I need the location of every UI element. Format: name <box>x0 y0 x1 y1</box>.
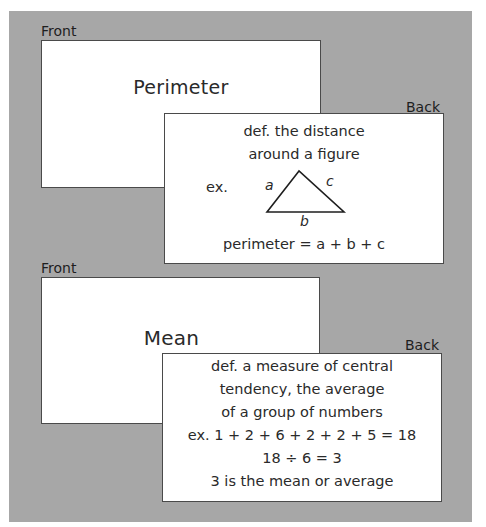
triangle-label-a: a <box>265 177 274 193</box>
back-label-mean: Back <box>405 337 439 353</box>
definition-perimeter: def. the distance around a figure <box>165 120 443 166</box>
formula-perimeter: perimeter = a + b + c <box>165 233 443 256</box>
term-perimeter: Perimeter <box>42 76 320 98</box>
front-label-mean: Front <box>41 260 76 276</box>
definition-line: of a group of numbers <box>163 401 441 424</box>
back-card-mean: def. a measure of central tendency, the … <box>162 353 442 502</box>
example-line: 18 ÷ 6 = 3 <box>163 447 441 470</box>
triangle-diagram <box>265 169 349 217</box>
triangle-label-b: b <box>300 213 309 229</box>
back-card-perimeter: def. the distance around a figure ex. a … <box>164 113 444 264</box>
definition-line: def. the distance <box>165 120 443 143</box>
term-mean: Mean <box>42 326 319 350</box>
definition-line: around a figure <box>165 143 443 166</box>
conclusion-line: 3 is the mean or average <box>163 470 441 493</box>
definition-line: tendency, the average <box>163 378 441 401</box>
example-line: ex. 1 + 2 + 6 + 2 + 2 + 5 = 18 <box>163 424 441 447</box>
triangle-label-c: c <box>326 173 334 189</box>
definition-line: def. a measure of central <box>163 355 441 378</box>
example-prefix: ex. <box>206 179 228 195</box>
definition-mean: def. a measure of central tendency, the … <box>163 355 441 493</box>
front-label-perimeter: Front <box>41 23 76 39</box>
